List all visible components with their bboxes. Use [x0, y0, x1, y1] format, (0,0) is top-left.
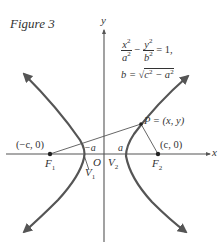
eq-exp: 2	[149, 37, 153, 45]
y-axis-label: y	[101, 14, 106, 26]
eq-exp: 2	[127, 50, 131, 58]
fraction-x2-a2: x2 a2	[121, 38, 132, 63]
v2-label: V2	[108, 156, 118, 171]
point-p	[139, 122, 143, 126]
eq-exp: 2	[149, 50, 153, 58]
v1-subscript: 1	[92, 173, 96, 181]
a-label: a	[118, 142, 123, 153]
eq-minus: −	[134, 44, 140, 55]
v2-subscript: 2	[115, 163, 119, 171]
equation-line2: b = √c2 − a2	[121, 67, 174, 80]
hyperbola-figure: Figure 3 y x O x2 a2 − y2 b2 = 1, b = √c…	[0, 0, 222, 244]
eq-b-equals: b =	[121, 69, 136, 80]
fraction-y2-b2: y2 b2	[143, 38, 154, 63]
eq-minus-a: − a	[155, 69, 170, 80]
f2-letter: F	[152, 157, 159, 169]
point-p-label: P = (x, y)	[144, 115, 184, 126]
f1-coords-label: (−c, 0)	[16, 139, 44, 150]
f1-subscript: 1	[52, 164, 56, 172]
x-axis-label: x	[212, 146, 217, 158]
f1-letter: F	[45, 157, 52, 169]
eq-rhs: = 1,	[156, 44, 172, 55]
v2-letter: V	[108, 156, 115, 168]
f2-label: F2	[152, 157, 162, 172]
f2-subscript: 2	[159, 164, 163, 172]
focus-f2-point	[156, 152, 160, 156]
eq-exp: 2	[127, 37, 131, 45]
radicand: c2 − a2	[144, 68, 173, 80]
line-f2-to-p	[141, 124, 158, 154]
f1-label: F1	[45, 157, 55, 172]
f2-coords-label: (c, 0)	[160, 139, 182, 150]
v1-label: V1	[85, 166, 95, 181]
figure-title: Figure 3	[10, 16, 55, 32]
neg-a-label: −a	[84, 142, 96, 153]
eq-exp: 2	[170, 67, 174, 75]
v1-letter: V	[85, 166, 92, 178]
hyperbola-diagram	[0, 0, 222, 244]
equation-block: x2 a2 − y2 b2 = 1,	[121, 38, 173, 63]
focus-f1-point	[48, 152, 52, 156]
eq-exp: 2	[149, 67, 153, 75]
